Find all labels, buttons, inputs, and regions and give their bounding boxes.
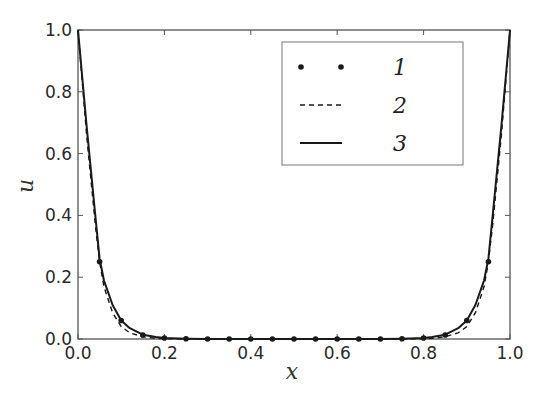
x-tick-label: 0.6 bbox=[324, 343, 351, 363]
y-tick-label: 0.4 bbox=[45, 205, 72, 225]
y-tick-label: 0.8 bbox=[45, 82, 72, 102]
y-tick-label: 1.0 bbox=[45, 20, 72, 40]
legend-marker-icon bbox=[338, 64, 344, 70]
legend-label: 1 bbox=[393, 55, 407, 80]
y-axis-label: u bbox=[13, 179, 38, 193]
x-tick-label: 0.4 bbox=[237, 343, 264, 363]
legend: 123 bbox=[282, 42, 463, 165]
x-tick-label: 0.8 bbox=[410, 343, 437, 363]
legend-box bbox=[282, 42, 463, 165]
x-tick-label: 0.2 bbox=[151, 343, 178, 363]
chart: 0.00.20.40.60.81.0 0.00.20.40.60.81.0 u … bbox=[0, 0, 546, 393]
x-axis-label: x bbox=[286, 359, 299, 384]
y-tick-label: 0.6 bbox=[45, 144, 72, 164]
legend-label: 2 bbox=[392, 93, 407, 118]
x-tick-label: 1.0 bbox=[496, 343, 523, 363]
legend-marker-icon bbox=[298, 64, 304, 70]
legend-label: 3 bbox=[393, 131, 407, 156]
series-1-markers bbox=[97, 259, 491, 342]
x-tick-label: 0.0 bbox=[64, 343, 91, 363]
y-tick-label: 0.2 bbox=[45, 267, 72, 287]
